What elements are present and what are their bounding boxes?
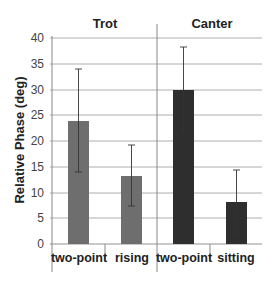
category-trot-two-point: two-point — [51, 251, 108, 265]
category-canter-sitting: sitting — [217, 251, 255, 265]
tick-15: 15 — [31, 160, 45, 174]
group-label-canter: Canter — [191, 16, 232, 31]
group-label-trot: Trot — [93, 16, 118, 31]
y-axis-label: Relative Phase (deg) — [12, 76, 27, 203]
category-trot-rising: rising — [115, 251, 149, 265]
tick-25: 25 — [31, 108, 45, 122]
category-canter-two-point: two-point — [156, 251, 213, 265]
bar-chart: 40 35 30 25 20 15 10 5 0 Relative Phase … — [0, 0, 275, 288]
tick-20: 20 — [31, 134, 45, 148]
y-axis-ticks: 40 35 30 25 20 15 10 5 0 — [31, 31, 45, 251]
tick-0: 0 — [37, 237, 44, 251]
tick-40: 40 — [31, 31, 45, 45]
x-axis-categories: two-point rising two-point sitting — [51, 251, 255, 265]
tick-10: 10 — [31, 186, 45, 200]
tick-5: 5 — [37, 211, 44, 225]
tick-30: 30 — [31, 83, 45, 97]
tick-35: 35 — [31, 57, 45, 71]
